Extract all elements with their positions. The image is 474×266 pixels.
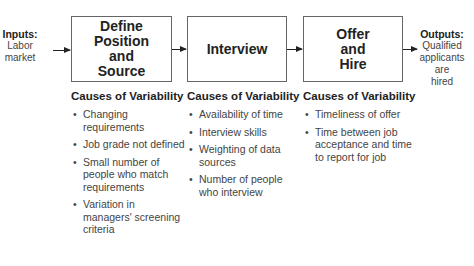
- inputs-line-2: market: [2, 52, 38, 64]
- causes-column-interview: Causes of Variability •Availability of t…: [187, 90, 302, 203]
- outputs-label: Outputs: Qualified applicants are hired: [412, 28, 472, 88]
- bullet-icon: •: [305, 108, 309, 121]
- cause-item: •Small number of people who match requir…: [71, 156, 186, 194]
- step-box-offer-and-hire: Offer and Hire: [303, 16, 403, 82]
- bullet-icon: •: [73, 198, 77, 211]
- outputs-line-3: are: [412, 64, 472, 76]
- outputs-line-4: hired: [412, 76, 472, 88]
- cause-item: •Time between job acceptance and time to…: [303, 126, 423, 164]
- causes-column-offer: Causes of Variability •Timeliness of off…: [303, 90, 423, 168]
- cause-item: •Interview skills: [187, 126, 302, 139]
- cause-item: •Variation in managers' screening criter…: [71, 198, 186, 236]
- step-title-line: Source: [72, 64, 171, 79]
- cause-item: •Availability of time: [187, 108, 302, 121]
- causes-title: Causes of Variability: [71, 90, 186, 102]
- causes-title: Causes of Variability: [187, 90, 302, 102]
- arrow-interview-to-offer: [287, 49, 302, 50]
- inputs-label: Inputs: Labor market: [2, 28, 38, 64]
- cause-item: •Timeliness of offer: [303, 108, 423, 121]
- step-title-line: and: [72, 49, 171, 64]
- step-box-define-position-and-source: Define Position and Source: [71, 16, 172, 82]
- bullet-icon: •: [189, 126, 193, 139]
- outputs-line-1: Qualified: [412, 40, 472, 52]
- inputs-heading: Inputs:: [2, 28, 38, 40]
- step-box-interview: Interview: [187, 16, 287, 82]
- cause-item: •Weighting of data sources: [187, 143, 302, 168]
- bullet-icon: •: [189, 173, 193, 186]
- step-title-line: Define Position: [72, 19, 171, 49]
- bullet-icon: •: [73, 156, 77, 169]
- step-title-line: and: [336, 42, 369, 57]
- bullet-icon: •: [189, 143, 193, 156]
- bullet-icon: •: [73, 138, 77, 151]
- cause-item: •Job grade not defined: [71, 138, 186, 151]
- causes-title: Causes of Variability: [303, 90, 423, 102]
- causes-column-define: Causes of Variability •Changing requirem…: [71, 90, 186, 241]
- cause-item: •Changing requirements: [71, 108, 186, 133]
- step-title-line: Interview: [207, 42, 268, 57]
- cause-item: •Number of people who interview: [187, 173, 302, 198]
- step-title-line: Hire: [336, 57, 369, 72]
- bullet-icon: •: [73, 108, 77, 121]
- inputs-line-1: Labor: [2, 40, 38, 52]
- outputs-line-2: applicants: [412, 52, 472, 64]
- outputs-heading: Outputs:: [412, 28, 472, 40]
- arrow-define-to-interview: [172, 49, 186, 50]
- arrow-inputs-to-define: [53, 50, 70, 51]
- step-title-line: Offer: [336, 27, 369, 42]
- bullet-icon: •: [189, 108, 193, 121]
- bullet-icon: •: [305, 126, 309, 139]
